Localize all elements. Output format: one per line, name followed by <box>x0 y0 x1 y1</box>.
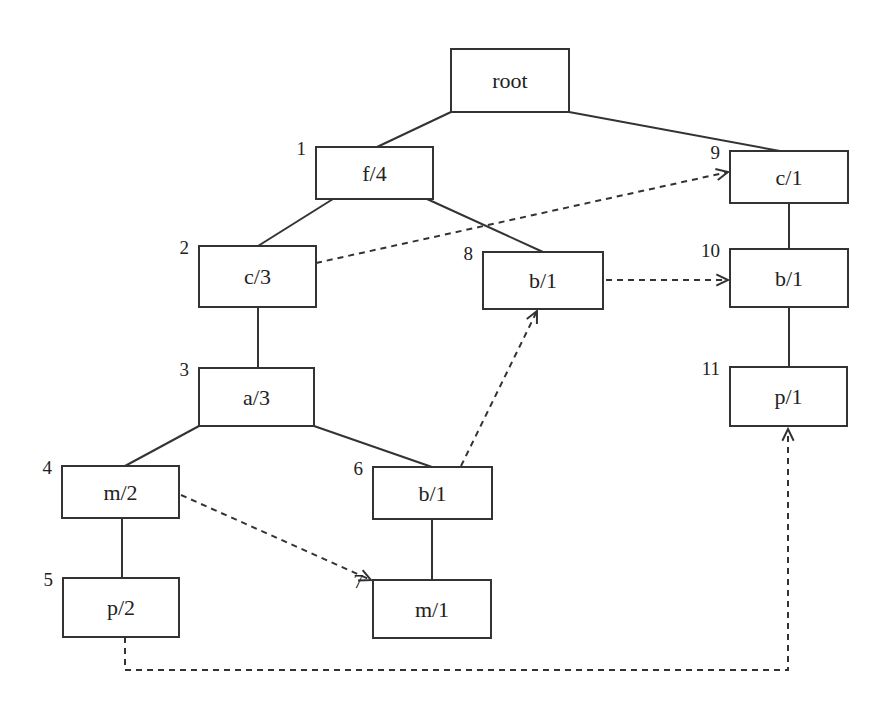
tree-edge-root-n9 <box>569 112 780 151</box>
tree-node-n11: p/111 <box>702 358 847 426</box>
node-link-b-n6-n8 <box>461 311 537 466</box>
node-label: c/1 <box>776 165 803 190</box>
tree-node-n5: p/25 <box>44 569 180 637</box>
node-label: m/2 <box>103 480 137 505</box>
node-label: p/2 <box>107 595 135 620</box>
node-index: 10 <box>701 240 720 261</box>
node-label: b/1 <box>529 268 557 293</box>
tree-node-root: root <box>451 49 569 112</box>
node-label: b/1 <box>775 266 803 291</box>
tree-node-n1: f/41 <box>297 138 434 199</box>
tree-edge-n3-n6 <box>314 426 432 467</box>
tree-node-n2: c/32 <box>180 237 317 307</box>
tree-node-n4: m/24 <box>43 457 180 518</box>
node-index: 2 <box>180 237 190 258</box>
tree-node-n8: b/18 <box>464 243 604 309</box>
tree-node-n7: m/17 <box>354 571 492 638</box>
tree-node-n10: b/110 <box>701 240 848 307</box>
tree-edge-root-n1 <box>377 112 451 147</box>
node-index: 9 <box>711 142 721 163</box>
node-index: 6 <box>354 458 364 479</box>
tree-nodes: rootf/41c/32a/33m/24p/25b/16m/17b/18c/19… <box>43 49 849 638</box>
node-label: a/3 <box>243 385 270 410</box>
node-index: 1 <box>297 138 307 159</box>
node-label: m/1 <box>415 597 449 622</box>
node-index: 7 <box>354 571 364 592</box>
tree-node-n6: b/16 <box>354 458 493 519</box>
node-index: 4 <box>43 457 53 478</box>
node-index: 8 <box>464 243 474 264</box>
node-label: p/1 <box>774 384 802 409</box>
tree-node-n3: a/33 <box>180 359 315 426</box>
node-index: 5 <box>44 569 54 590</box>
node-index: 11 <box>702 358 720 379</box>
tree-edge-n1-n2 <box>258 199 333 246</box>
node-label: root <box>492 68 527 93</box>
tree-edge-n1-n8 <box>427 199 543 252</box>
tree-node-n9: c/19 <box>711 142 849 203</box>
node-label: c/3 <box>244 264 271 289</box>
node-label: b/1 <box>418 481 446 506</box>
arrowhead-icon <box>527 311 537 324</box>
tree-edge-n3-n4 <box>125 426 199 466</box>
node-link-m-n4-n7 <box>181 495 371 580</box>
fp-tree-diagram: rootf/41c/32a/33m/24p/25b/16m/17b/18c/19… <box>0 0 883 714</box>
node-label: f/4 <box>362 161 386 186</box>
node-index: 3 <box>180 359 190 380</box>
